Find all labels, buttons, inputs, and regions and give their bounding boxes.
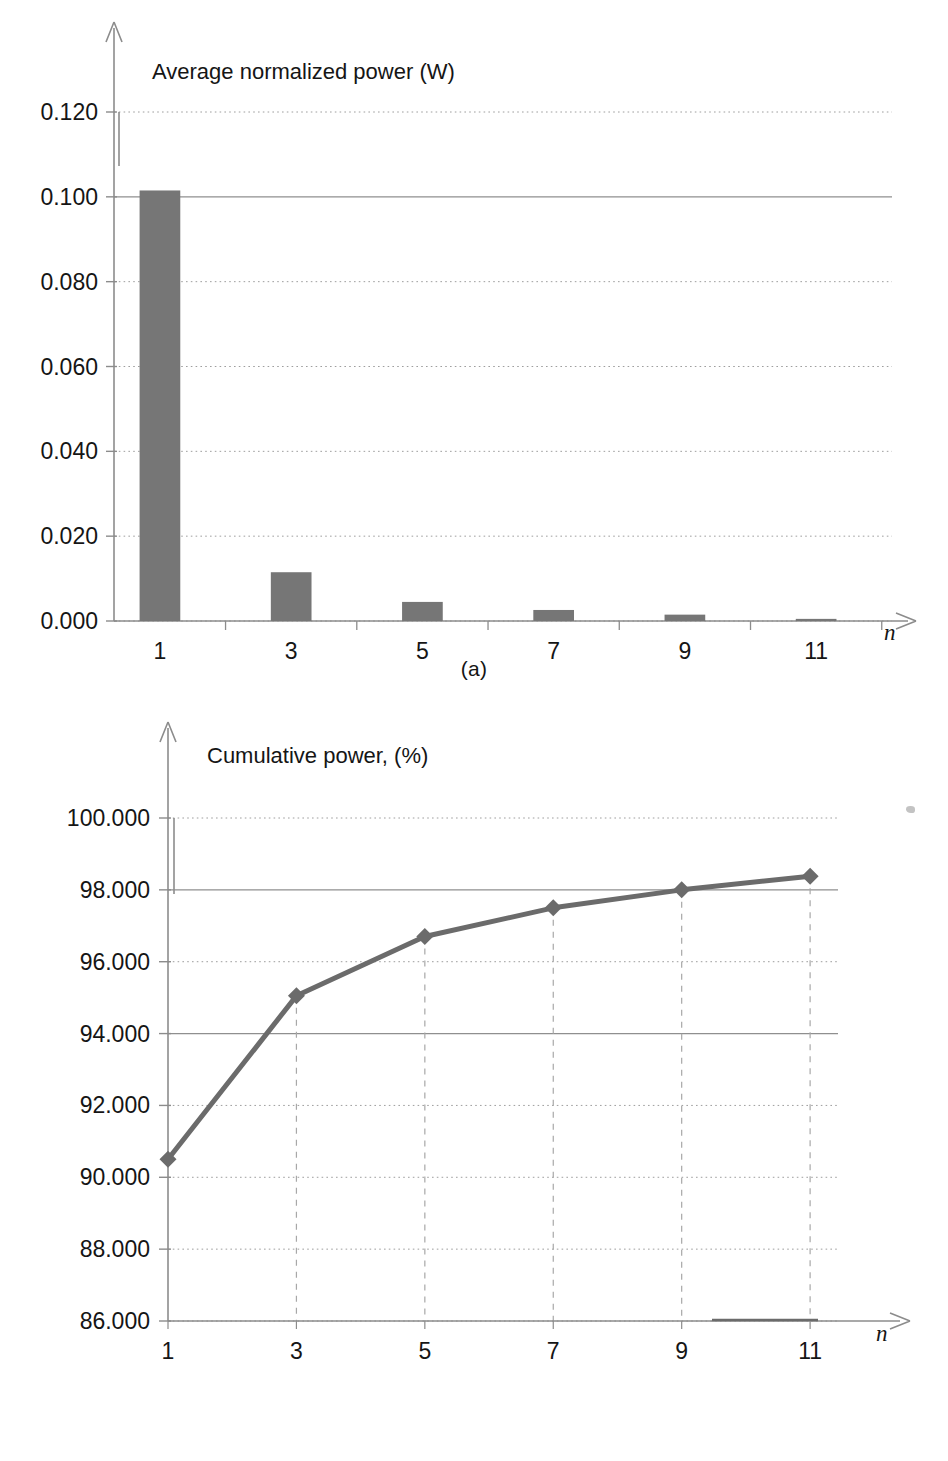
svg-text:0.040: 0.040 bbox=[40, 438, 98, 464]
y-axis-panel-b bbox=[160, 722, 176, 1321]
panel-a-caption: (a) bbox=[0, 657, 948, 681]
svg-text:92.000: 92.000 bbox=[80, 1092, 150, 1118]
svg-text:7: 7 bbox=[547, 1338, 560, 1364]
gridlines-panel-b bbox=[168, 818, 838, 1321]
x-axis-label-panel-a: n bbox=[884, 620, 896, 645]
svg-text:98.000: 98.000 bbox=[80, 877, 150, 903]
svg-text:94.000: 94.000 bbox=[80, 1021, 150, 1047]
svg-text:5: 5 bbox=[418, 1338, 431, 1364]
y-ticks-panel-a bbox=[106, 112, 117, 621]
chart-title-panel-b: Cumulative power, (%) bbox=[207, 743, 428, 768]
x-ticks-panel-b bbox=[168, 1321, 810, 1329]
svg-text:86.000: 86.000 bbox=[80, 1308, 150, 1334]
svg-text:96.000: 96.000 bbox=[80, 949, 150, 975]
svg-text:90.000: 90.000 bbox=[80, 1164, 150, 1190]
svg-text:0.100: 0.100 bbox=[40, 184, 98, 210]
x-axis-label-panel-b: n bbox=[876, 1321, 888, 1346]
scan-artifact-speck bbox=[906, 806, 915, 813]
y-ticks-panel-b bbox=[159, 818, 171, 1321]
data-series-panel-b bbox=[160, 868, 819, 1168]
svg-text:0.060: 0.060 bbox=[40, 354, 98, 380]
x-ticks-panel-a bbox=[226, 621, 882, 630]
gridlines-panel-a bbox=[114, 112, 892, 621]
svg-text:1: 1 bbox=[162, 1338, 175, 1364]
svg-text:11: 11 bbox=[798, 1338, 822, 1364]
bars-panel-a bbox=[140, 190, 837, 621]
svg-text:88.000: 88.000 bbox=[80, 1236, 150, 1262]
svg-text:0.120: 0.120 bbox=[40, 99, 98, 125]
chart-panel-b: 86.00088.00090.00092.00094.00096.00098.0… bbox=[0, 700, 948, 1461]
svg-text:100.000: 100.000 bbox=[67, 805, 150, 831]
line-chart-svg: 86.00088.00090.00092.00094.00096.00098.0… bbox=[0, 700, 948, 1461]
svg-text:0.080: 0.080 bbox=[40, 269, 98, 295]
bar-chart-svg: 0.0000.0200.0400.0600.0800.1000.120 1357… bbox=[0, 0, 948, 700]
y-tick-labels-panel-b: 86.00088.00090.00092.00094.00096.00098.0… bbox=[67, 805, 150, 1334]
svg-text:3: 3 bbox=[290, 1338, 303, 1364]
x-axis-panel-a bbox=[114, 613, 916, 629]
svg-text:0.020: 0.020 bbox=[40, 523, 98, 549]
figure-container: 0.0000.0200.0400.0600.0800.1000.120 1357… bbox=[0, 0, 948, 1461]
y-tick-labels-panel-a: 0.0000.0200.0400.0600.0800.1000.120 bbox=[40, 99, 98, 634]
chart-title-panel-a: Average normalized power (W) bbox=[152, 59, 455, 84]
x-axis-panel-b bbox=[168, 1313, 910, 1329]
x-tick-labels-panel-b: 1357911 bbox=[162, 1338, 822, 1364]
chart-panel-a: 0.0000.0200.0400.0600.0800.1000.120 1357… bbox=[0, 0, 948, 700]
droplines-panel-b bbox=[296, 876, 810, 1321]
svg-text:9: 9 bbox=[675, 1338, 688, 1364]
svg-text:0.000: 0.000 bbox=[40, 608, 98, 634]
